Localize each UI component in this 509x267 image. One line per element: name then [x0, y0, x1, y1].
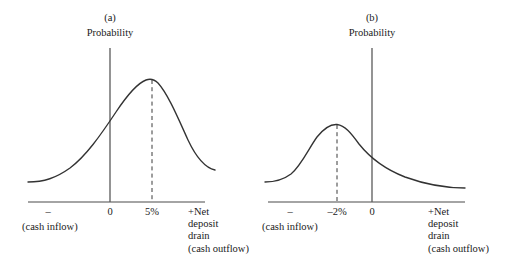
right-axis-label-line-1: +Net	[188, 206, 249, 218]
right-axis-label-line-4: (cash outflow)	[188, 243, 249, 255]
right-axis-label-line-2: deposit	[428, 218, 489, 230]
right-axis-label-line-3: drain	[428, 230, 489, 242]
x-axis-negative-sign-b: –	[287, 206, 292, 217]
cash-inflow-caption-a: (cash inflow)	[22, 221, 78, 232]
right-axis-label-line-4: (cash outflow)	[428, 243, 489, 255]
right-axis-label-line-1: +Net	[428, 206, 489, 218]
right-axis-label-line-2: deposit	[188, 218, 249, 230]
y-axis-label-a: Probability	[87, 27, 134, 38]
x-tick-mode-a: 5%	[145, 206, 159, 217]
right-axis-label-a: +Net deposit drain (cash outflow)	[188, 206, 249, 255]
panel-title-a: (a)	[104, 12, 116, 23]
x-tick-zero-a: 0	[107, 206, 112, 217]
y-axis-label-b: Probability	[349, 27, 396, 38]
right-axis-label-line-3: drain	[188, 230, 249, 242]
chart-panel-b: (b) Probability – (cash inflow) –2% 0 +N…	[255, 0, 509, 267]
x-axis-negative-sign-a: –	[45, 206, 50, 217]
figure-container: (a) Probability – (cash inflow) 0 5% +Ne…	[0, 0, 509, 267]
x-tick-zero-b: 0	[369, 206, 374, 217]
chart-panel-a: (a) Probability – (cash inflow) 0 5% +Ne…	[0, 0, 255, 267]
distribution-curve-a	[28, 79, 215, 182]
x-tick-mode-b: –2%	[327, 206, 346, 217]
cash-inflow-caption-b: (cash inflow)	[262, 221, 318, 232]
distribution-curve-b	[265, 124, 465, 188]
panel-title-b: (b)	[366, 12, 378, 23]
right-axis-label-b: +Net deposit drain (cash outflow)	[428, 206, 489, 255]
